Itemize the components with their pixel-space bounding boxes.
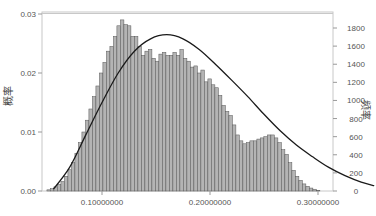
histogram-bar <box>64 176 68 191</box>
histogram-bar <box>250 141 254 191</box>
histogram-bar <box>274 138 278 191</box>
histogram-bar <box>215 88 219 191</box>
left-y-tick-label: 0.01 <box>20 128 36 137</box>
histogram-bar <box>267 135 271 191</box>
histogram-bar <box>243 144 247 191</box>
histogram-bar <box>257 139 261 191</box>
histogram-bar <box>302 184 306 191</box>
histogram-bar <box>260 138 264 191</box>
histogram-bar <box>103 62 107 191</box>
histogram-bar <box>271 135 275 191</box>
right-y-tick-label: 400 <box>349 151 363 160</box>
left-y-tick-label: 0.00 <box>20 187 36 196</box>
histogram-bar <box>246 143 250 191</box>
histogram-bar <box>124 25 128 191</box>
histogram-bar <box>292 170 296 191</box>
right-y-axis-title: 频率 <box>360 100 372 120</box>
histogram-bar <box>68 170 72 191</box>
left-y-axis-title: 概率 <box>2 86 14 106</box>
right-y-tick-label: 0 <box>354 187 359 196</box>
histogram-bar <box>162 52 166 191</box>
histogram-bar <box>92 97 96 191</box>
histogram-bar <box>295 176 299 191</box>
right-y-tick-label: 600 <box>349 133 363 142</box>
histogram-bar <box>190 67 194 191</box>
histogram-bar <box>145 51 149 191</box>
histogram-bar <box>281 150 285 191</box>
histogram-bar <box>134 36 138 191</box>
histogram-bar <box>57 185 61 191</box>
histogram-bar <box>169 55 173 191</box>
histogram-bar <box>159 54 163 191</box>
histogram-bar <box>96 86 100 191</box>
histogram-bar <box>131 36 135 191</box>
right-y-tick-label: 200 <box>349 169 363 178</box>
histogram-bar <box>113 36 117 191</box>
histogram-bar <box>197 73 201 191</box>
histogram-bar <box>232 125 236 191</box>
x-tick-label: 0.30000000 <box>297 198 340 207</box>
histogram-bar <box>117 26 121 191</box>
histogram-bar <box>176 55 180 191</box>
histogram-bar <box>148 49 152 191</box>
histogram-bar <box>173 52 177 191</box>
histogram-bar <box>155 61 159 191</box>
histogram-bar <box>127 26 130 191</box>
histogram-bar <box>61 182 65 191</box>
right-y-tick-label: 1600 <box>347 42 365 51</box>
histogram-bar <box>152 58 156 191</box>
histogram-bar <box>71 163 75 191</box>
histogram-bar <box>194 66 198 191</box>
left-y-axis: 0.000.010.020.03 <box>20 10 42 196</box>
histogram-bar <box>306 186 310 191</box>
histogram-bar <box>120 20 124 191</box>
histogram-bar <box>208 79 212 191</box>
histogram-bar <box>285 154 289 191</box>
histogram-bar <box>201 70 205 191</box>
histogram-bar <box>138 46 142 191</box>
histogram-bar <box>222 105 226 191</box>
histogram-bar <box>106 51 110 191</box>
histogram-bar <box>229 115 233 191</box>
histogram-bar <box>187 61 191 191</box>
histogram-bar <box>75 153 79 191</box>
right-y-tick-label: 1800 <box>347 24 365 33</box>
histogram-bar <box>236 135 240 191</box>
histogram-bar <box>278 143 282 191</box>
histogram-bar <box>288 163 292 191</box>
right-y-tick-label: 1400 <box>347 60 365 69</box>
histogram-bar <box>225 111 229 191</box>
histogram-bar <box>47 190 51 191</box>
histogram-bar <box>309 188 313 191</box>
histogram-chart: 0.000.010.020.03 02004006008001000120014… <box>0 0 376 216</box>
histogram-bar <box>141 55 145 191</box>
x-tick-label: 0.10000000 <box>81 198 124 207</box>
histogram-bar <box>299 180 303 191</box>
x-tick-label: 0.20000000 <box>189 198 232 207</box>
histogram-bar <box>166 55 170 191</box>
histogram-bar <box>239 141 243 191</box>
histogram-bar <box>183 58 187 191</box>
histogram-bar <box>110 46 114 191</box>
left-y-tick-label: 0.02 <box>20 69 36 78</box>
histogram-bar <box>218 95 222 191</box>
x-axis: 0.100000000.200000000.30000000 <box>81 191 340 207</box>
histogram-bar <box>204 82 208 191</box>
histogram-bar <box>316 190 320 191</box>
histogram-bar <box>313 189 317 191</box>
histogram-bar <box>99 73 103 191</box>
histogram-bar <box>180 49 184 191</box>
histogram-bar <box>211 85 215 191</box>
histogram-bar <box>264 137 268 191</box>
histogram-bar <box>253 141 257 191</box>
left-y-tick-label: 0.03 <box>20 10 36 19</box>
right-y-tick-label: 1200 <box>347 78 365 87</box>
